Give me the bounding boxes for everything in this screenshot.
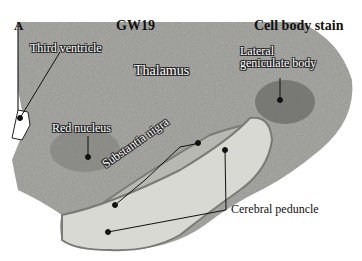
label-thalamus: Thalamus (134, 64, 189, 78)
label-red-nucleus: Red nucleus (52, 122, 111, 134)
label-cerebral-peduncle: Cerebral peduncle (231, 203, 319, 215)
age-title: GW19 (116, 19, 155, 33)
label-third-ventricle: Third ventricle (30, 42, 102, 54)
lgn-region (255, 80, 315, 124)
histology-figure: A GW19 Cell body stain Third ventricle T… (0, 0, 362, 261)
panel-letter: A (14, 19, 23, 32)
label-lateral-geniculate-line2: geniculate body (240, 57, 316, 69)
stain-title: Cell body stain (254, 19, 343, 33)
